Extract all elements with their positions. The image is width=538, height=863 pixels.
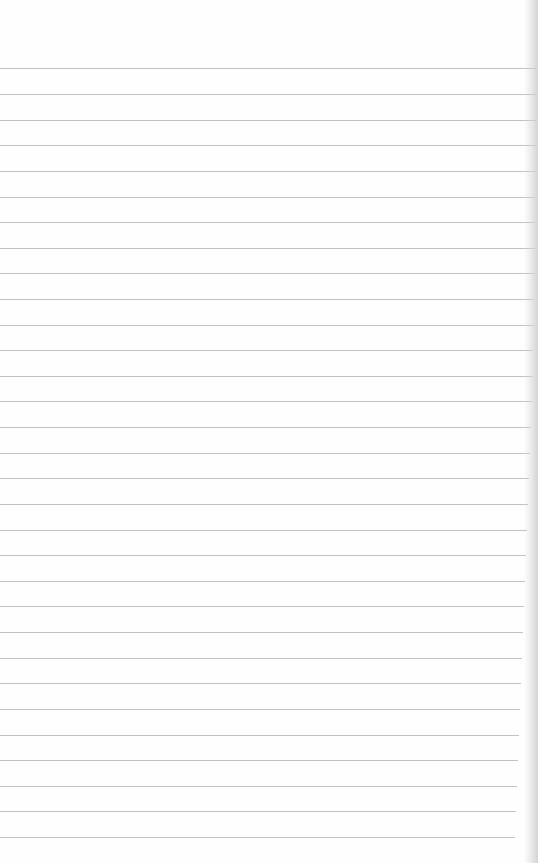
ruled-line (0, 760, 518, 761)
ruled-line (0, 401, 532, 402)
ruled-line (0, 811, 516, 812)
ruled-line (0, 837, 515, 838)
ruled-line (0, 120, 536, 121)
ruled-line (0, 632, 523, 633)
ruled-line (0, 376, 533, 377)
ruled-line (0, 555, 526, 556)
ruled-line (0, 504, 528, 505)
ruled-line (0, 478, 529, 479)
ruled-line (0, 581, 525, 582)
ruled-line (0, 68, 536, 69)
ruled-line (0, 658, 522, 659)
ruled-line (0, 145, 536, 146)
ruled-line (0, 709, 520, 710)
lined-paper-page (0, 0, 538, 863)
ruled-line (0, 325, 534, 326)
ruled-line (0, 248, 535, 249)
ruled-line (0, 222, 535, 223)
ruled-line (0, 299, 534, 300)
ruled-line (0, 273, 535, 274)
ruled-line (0, 350, 533, 351)
ruled-line (0, 606, 524, 607)
ruled-line (0, 94, 536, 95)
ruled-line (0, 453, 530, 454)
ruled-line (0, 530, 527, 531)
ruled-line (0, 786, 517, 787)
ruled-line (0, 427, 531, 428)
page-edge-shadow (524, 0, 538, 863)
ruled-line (0, 171, 536, 172)
ruled-line (0, 735, 519, 736)
ruled-line (0, 197, 535, 198)
ruled-line (0, 683, 521, 684)
